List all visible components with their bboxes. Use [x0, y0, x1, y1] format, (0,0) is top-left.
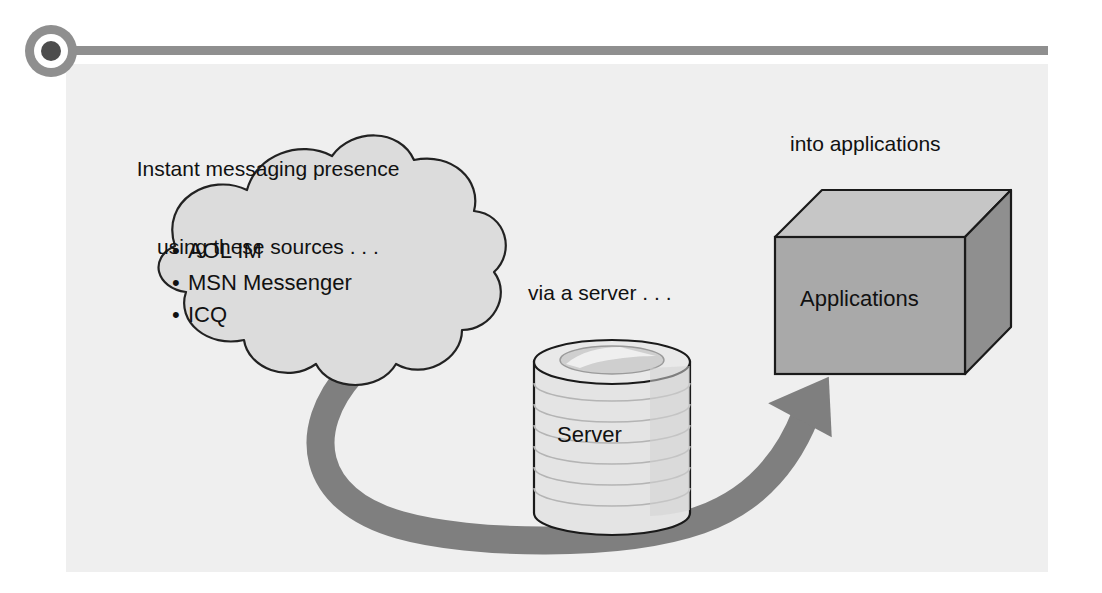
- list-item: •MSN Messenger: [172, 270, 352, 296]
- list-item: •ICQ: [172, 302, 352, 328]
- via-server-label: via a server . . .: [528, 280, 672, 306]
- list-item-label: AOL IM: [188, 238, 262, 263]
- bullet-icon: •: [172, 270, 188, 296]
- source-heading-line1: Instant messaging presence: [118, 156, 418, 182]
- list-item: •AOL IM: [172, 238, 352, 264]
- figure-root: Instant messaging presence using these s…: [0, 0, 1102, 593]
- server-label: Server: [557, 421, 622, 449]
- applications-label: Applications: [800, 285, 919, 313]
- applications-box: [775, 190, 1011, 374]
- into-applications-label: into applications: [790, 131, 941, 157]
- bullet-icon: •: [172, 302, 188, 328]
- bullet-icon: •: [172, 238, 188, 264]
- list-item-label: MSN Messenger: [188, 270, 352, 295]
- cloud-source-list: •AOL IM •MSN Messenger •ICQ: [172, 238, 352, 334]
- list-item-label: ICQ: [188, 302, 227, 327]
